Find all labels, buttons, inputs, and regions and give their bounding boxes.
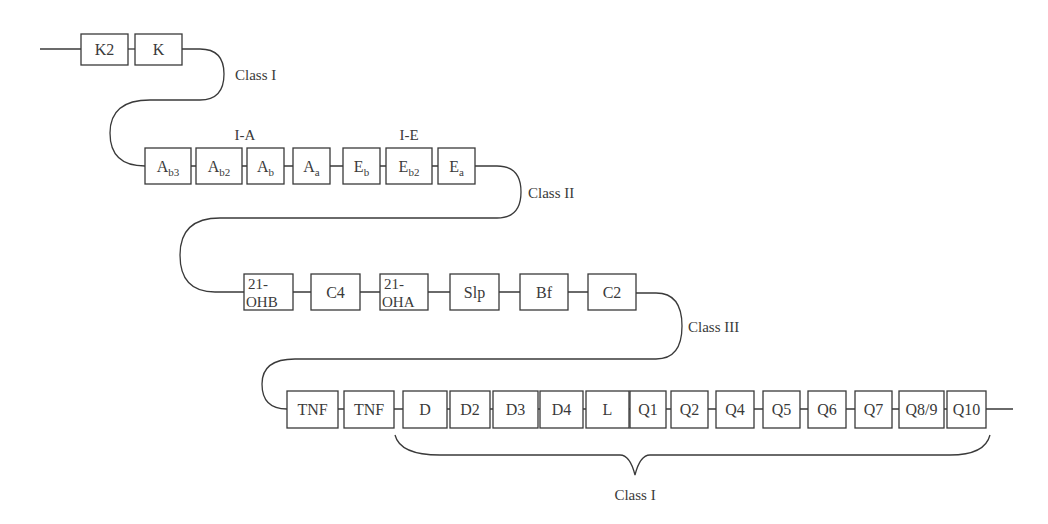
gene-label: 21- <box>248 276 268 292</box>
gene-label: D <box>419 401 431 418</box>
mhc-gene-map: K2 K Class I I-A I-E Ab3 Ab2 Ab Aa Eb Eb… <box>0 0 1048 524</box>
gene-label: Q6 <box>817 401 837 418</box>
gene-label: Q4 <box>725 401 745 418</box>
gene-label: Q10 <box>953 401 981 418</box>
region-label-class-i-brace: Class I <box>614 487 655 503</box>
gene-label: 21- <box>384 276 404 292</box>
row-3: 21- OHB C4 21- OHA Slp Bf C2 Class III <box>244 274 739 409</box>
gene-label: Q2 <box>680 401 700 418</box>
gene-label: Q7 <box>864 401 884 418</box>
gene-label: Q1 <box>638 401 658 418</box>
gene-label: OHA <box>382 294 415 310</box>
gene-label: Q5 <box>772 401 792 418</box>
region-label-class-iii: Class III <box>688 319 739 335</box>
row-2: I-A I-E Ab3 Ab2 Ab Aa Eb Eb2 Ea Class II <box>145 127 574 292</box>
gene-label: Q8/9 <box>906 401 938 418</box>
gene-label: D4 <box>552 401 572 418</box>
row-4: TNF TNF D D2 D3 D4 L Q1 Q2 Q4 Q5 Q6 Q7 Q… <box>287 391 1013 503</box>
gene-label: OHB <box>246 294 278 310</box>
gene-label: K2 <box>95 41 115 58</box>
group-label-i-a: I-A <box>235 127 256 143</box>
gene-label: C4 <box>326 284 345 301</box>
row-1: K2 K Class I <box>40 34 276 166</box>
gene-label: Bf <box>536 284 553 301</box>
gene-label: TNF <box>297 401 327 418</box>
region-label-class-i: Class I <box>235 67 276 83</box>
gene-label: K <box>153 41 165 58</box>
gene-label: D2 <box>460 401 480 418</box>
group-label-i-e: I-E <box>399 127 418 143</box>
chromosome-loop <box>180 166 521 292</box>
gene-label: L <box>603 401 613 418</box>
gene-label: C2 <box>603 284 622 301</box>
class-i-brace <box>395 435 990 475</box>
gene-label: TNF <box>354 401 384 418</box>
gene-label: Slp <box>464 284 485 302</box>
region-label-class-ii: Class II <box>528 185 574 201</box>
gene-label: D3 <box>506 401 526 418</box>
